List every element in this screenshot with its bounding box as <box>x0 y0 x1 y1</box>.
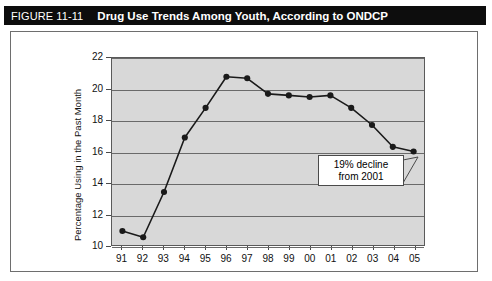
x-tick-label: 95 <box>195 253 215 264</box>
x-tick-label: 99 <box>279 253 299 264</box>
x-tick-label: 00 <box>300 253 320 264</box>
data-point-marker <box>182 134 188 140</box>
data-point-marker <box>140 234 146 240</box>
annotation-line-1: 19% decline <box>334 159 388 171</box>
data-point-marker <box>286 92 292 98</box>
data-point-marker <box>390 144 396 150</box>
y-tick-label: 14 <box>81 177 103 188</box>
x-tick-label: 94 <box>174 253 194 264</box>
data-point-marker <box>411 148 417 154</box>
x-tick-label: 01 <box>321 253 341 264</box>
data-point-marker <box>327 92 333 98</box>
x-tick-label: 02 <box>342 253 362 264</box>
figure-title-bar: FIGURE 11-11 Drug Use Trends Among Youth… <box>4 6 486 25</box>
data-point-marker <box>119 228 125 234</box>
page-title: Drug Use Trends Among Youth, According t… <box>97 10 388 22</box>
y-tick-label: 22 <box>81 51 103 62</box>
y-tick-label: 10 <box>81 240 103 251</box>
data-series-line <box>112 58 424 245</box>
x-tick-label: 05 <box>405 253 425 264</box>
data-point-marker <box>265 91 271 97</box>
y-tick-label: 18 <box>81 114 103 125</box>
data-point-marker <box>369 122 375 128</box>
data-point-marker <box>307 94 313 100</box>
x-tick-label: 03 <box>363 253 383 264</box>
data-point-marker <box>348 105 354 111</box>
y-tick-mark <box>106 246 111 247</box>
data-point-marker <box>161 189 167 195</box>
y-tick-label: 16 <box>81 146 103 157</box>
x-tick-label: 97 <box>237 253 257 264</box>
plot-area <box>111 57 425 246</box>
x-tick-label: 96 <box>216 253 236 264</box>
x-tick-label: 04 <box>384 253 404 264</box>
annotation-callout: 19% decline from 2001 <box>318 155 404 186</box>
x-tick-label: 92 <box>132 253 152 264</box>
x-tick-label: 93 <box>153 253 173 264</box>
figure-number-label: FIGURE 11-11 <box>11 10 83 22</box>
data-point-marker <box>244 75 250 81</box>
data-point-marker <box>203 105 209 111</box>
x-tick-label: 98 <box>258 253 278 264</box>
data-point-marker <box>223 74 229 80</box>
x-tick-label: 91 <box>111 253 131 264</box>
gridline <box>112 247 424 248</box>
y-tick-label: 20 <box>81 83 103 94</box>
annotation-line-2: from 2001 <box>338 171 383 183</box>
y-tick-label: 12 <box>81 209 103 220</box>
figure-container: FIGURE 11-11 Drug Use Trends Among Youth… <box>0 0 492 281</box>
